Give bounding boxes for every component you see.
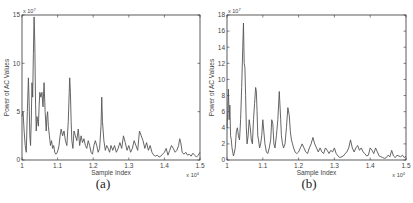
chart-panel-a: 11.11.21.31.41.5051015x 107x 104Sample I… xyxy=(0,0,206,203)
x-tick-label: 1.2 xyxy=(89,162,98,169)
y-tick-label: 0 xyxy=(16,156,20,163)
y-tick-label: 0 xyxy=(221,156,225,163)
y-multiplier-label: x 107 xyxy=(228,7,241,15)
y-axis-label: Power of AC Values xyxy=(3,58,10,116)
x-tick-label: 1 xyxy=(20,162,24,169)
x-tick-label: 1.1 xyxy=(53,162,62,169)
chart-panel-b: 11.11.21.31.41.5024681012141618x 107x 10… xyxy=(206,0,412,203)
x-tick-label: 1 xyxy=(225,162,229,169)
x-tick-label: 1.4 xyxy=(366,162,375,169)
plot-frame xyxy=(227,15,406,160)
y-tick-label: 10 xyxy=(13,60,21,67)
y-tick-label: 16 xyxy=(218,27,226,34)
x-tick-label: 1.2 xyxy=(294,162,303,169)
y-tick-label: 2 xyxy=(221,140,225,147)
y-tick-label: 14 xyxy=(218,44,226,51)
x-tick-label: 1.5 xyxy=(401,162,410,169)
x-tick-label: 1.1 xyxy=(258,162,267,169)
x-tick-label: 1.3 xyxy=(330,162,339,169)
chart-caption-b: (b) xyxy=(206,176,412,192)
y-tick-label: 10 xyxy=(218,76,226,83)
y-tick-label: 5 xyxy=(16,108,20,115)
y-multiplier-label: x 107 xyxy=(23,7,36,15)
y-tick-label: 4 xyxy=(221,124,225,131)
x-tick-label: 1.3 xyxy=(124,162,133,169)
line-chart-b: 11.11.21.31.41.5024681012141618x 107x 10… xyxy=(206,0,413,203)
y-tick-label: 6 xyxy=(221,108,225,115)
y-tick-label: 12 xyxy=(218,60,226,67)
line-chart-a: 11.11.21.31.41.5051015x 107x 104Sample I… xyxy=(0,0,206,203)
y-tick-label: 15 xyxy=(13,11,21,18)
y-tick-label: 18 xyxy=(218,11,226,18)
plot-frame xyxy=(22,15,200,160)
chart-caption-a: (a) xyxy=(0,176,206,192)
y-axis-label: Power of AC Values xyxy=(208,58,215,116)
x-tick-label: 1.4 xyxy=(160,162,169,169)
x-tick-label: 1.5 xyxy=(195,162,204,169)
y-tick-label: 8 xyxy=(221,92,225,99)
